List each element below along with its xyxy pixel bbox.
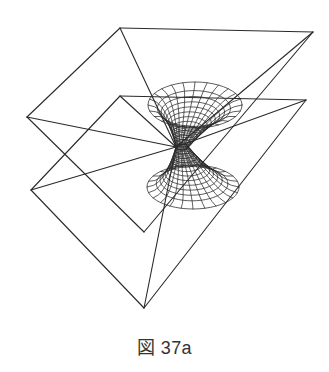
frame-edge (31, 147, 176, 190)
frame-edge (120, 96, 306, 100)
frame-edge (31, 190, 144, 308)
frame-edge (31, 96, 120, 190)
frame-edge (27, 117, 176, 147)
frame-edge (176, 32, 313, 147)
figure-caption: 図 37a (0, 333, 329, 359)
hourglass-mesh-surface (147, 82, 242, 209)
frame-edge (27, 28, 120, 117)
frame-edge (27, 117, 144, 232)
frame-edge (120, 28, 313, 32)
hourglass-wireframe-diagram (0, 0, 329, 330)
frame-edge (120, 28, 176, 147)
